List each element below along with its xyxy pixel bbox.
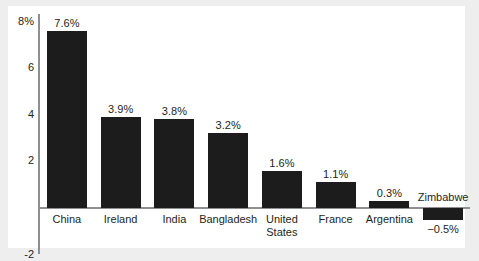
bar-value-label: 3.9% <box>108 103 133 115</box>
bar-value-label: −0.5% <box>427 223 459 235</box>
bar[interactable] <box>101 117 141 208</box>
category-label: Ireland <box>92 213 150 226</box>
bar-group[interactable]: 3.2%Bangladesh <box>201 14 255 259</box>
bar[interactable] <box>47 31 87 208</box>
bar-group[interactable]: 7.6%China <box>40 14 94 259</box>
bar[interactable] <box>423 208 463 220</box>
bar-value-label: 0.3% <box>377 187 402 199</box>
category-label: India <box>145 213 203 226</box>
y-tick-label: 6 <box>8 62 34 73</box>
category-label: France <box>307 213 365 226</box>
bar-plot-area: 7.6%China3.9%Ireland3.8%India3.2%Banglad… <box>40 14 470 259</box>
y-tick-label: 2 <box>8 155 34 166</box>
bar[interactable] <box>369 201 409 208</box>
bar-value-label: 1.6% <box>269 157 294 169</box>
y-tick-label: -2 <box>8 249 34 260</box>
category-label: China <box>38 213 96 226</box>
bar-group[interactable]: 1.1%France <box>309 14 363 259</box>
category-label: United States <box>253 213 311 238</box>
bar-group[interactable]: 1.6%United States <box>255 14 309 259</box>
category-label: Zimbabwe <box>414 191 472 204</box>
category-label: Bangladesh <box>199 213 257 226</box>
chart-page: 8%642-2 7.6%China3.9%Ireland3.8%India3.2… <box>0 0 479 261</box>
bar-group[interactable]: −0.5%Zimbabwe <box>416 14 470 259</box>
bar[interactable] <box>154 119 194 208</box>
bar-value-label: 3.2% <box>216 119 241 131</box>
bar[interactable] <box>316 182 356 208</box>
bar[interactable] <box>208 133 248 208</box>
bar-group[interactable]: 3.9%Ireland <box>94 14 148 259</box>
bar-value-label: 7.6% <box>54 17 79 29</box>
y-tick-label: 4 <box>8 109 34 120</box>
category-label: Argentina <box>360 213 418 226</box>
bar-value-label: 3.8% <box>162 105 187 117</box>
y-tick-label: 8% <box>8 16 34 27</box>
plot-canvas: 8%642-2 7.6%China3.9%Ireland3.8%India3.2… <box>8 6 465 248</box>
bar-value-label: 1.1% <box>323 168 348 180</box>
bar-group[interactable]: 0.3%Argentina <box>363 14 417 259</box>
bar-group[interactable]: 3.8%India <box>148 14 202 259</box>
bar[interactable] <box>262 171 302 208</box>
